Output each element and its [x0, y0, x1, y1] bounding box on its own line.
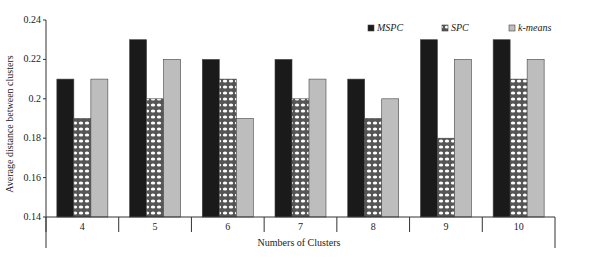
y-axis-label: Average distance between clusters [4, 55, 15, 192]
bar-chart: 0.140.160.180.20.220.24 45678910 MSPCSPC… [0, 0, 602, 265]
legend: MSPCSPCk-means [368, 22, 551, 33]
bar-mspc-9 [420, 40, 437, 217]
bar-k-means-5 [164, 59, 181, 217]
x-tick-label: 6 [225, 221, 230, 232]
bar-k-means-9 [454, 59, 471, 217]
bar-mspc-10 [493, 40, 510, 217]
bar-k-means-7 [309, 79, 326, 217]
x-tick-label: 8 [371, 221, 376, 232]
bar-spc-7 [292, 99, 309, 217]
bar-mspc-7 [275, 59, 292, 217]
legend-swatch-icon [509, 25, 515, 31]
bar-spc-5 [147, 99, 164, 217]
y-axis: 0.140.160.180.20.220.24 [24, 14, 47, 248]
bar-spc-6 [219, 79, 236, 217]
bar-spc-4 [74, 119, 91, 218]
y-tick-label: 0.22 [24, 53, 42, 64]
bar-k-means-8 [382, 99, 399, 217]
legend-label: SPC [451, 22, 469, 33]
legend-label: k-means [518, 22, 551, 33]
bar-spc-8 [365, 119, 382, 218]
bar-mspc-5 [130, 40, 147, 217]
bar-spc-10 [510, 79, 527, 217]
bar-mspc-6 [202, 59, 219, 217]
y-tick-label: 0.24 [24, 14, 42, 25]
y-tick-label: 0.2 [29, 93, 42, 104]
bar-k-means-6 [236, 119, 253, 218]
y-tick-label: 0.18 [24, 132, 42, 143]
y-tick-label: 0.16 [24, 172, 42, 183]
bar-k-means-10 [527, 59, 544, 217]
bar-mspc-4 [57, 79, 74, 217]
bar-k-means-4 [91, 79, 108, 217]
bar-mspc-8 [348, 79, 365, 217]
legend-swatch-icon [442, 25, 448, 31]
x-tick-label: 4 [80, 221, 85, 232]
y-tick-label: 0.14 [24, 211, 42, 222]
x-tick-label: 10 [514, 221, 524, 232]
x-tick-label: 5 [153, 221, 158, 232]
bar-spc-9 [437, 138, 454, 217]
x-tick-label: 9 [443, 221, 448, 232]
legend-label: MSPC [376, 22, 403, 33]
bars [57, 40, 544, 217]
x-axis-label: Numbers of Clusters [258, 237, 341, 248]
legend-swatch-icon [368, 25, 374, 31]
x-tick-label: 7 [298, 221, 303, 232]
